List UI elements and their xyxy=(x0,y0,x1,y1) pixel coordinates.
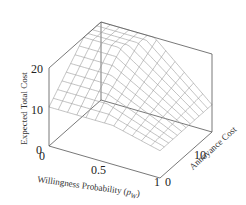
z-tick-20: 20 xyxy=(31,63,43,75)
x-tick-0: 0 xyxy=(39,150,45,162)
surface-mesh xyxy=(49,22,212,151)
x-tick-0-5: 0.5 xyxy=(91,164,106,176)
x-tick-1: 1 xyxy=(154,176,160,188)
z-axis-title: Expected Total Cost xyxy=(20,69,29,149)
z-tick-10: 10 xyxy=(31,104,43,116)
y-tick-0: 0 xyxy=(165,176,171,188)
